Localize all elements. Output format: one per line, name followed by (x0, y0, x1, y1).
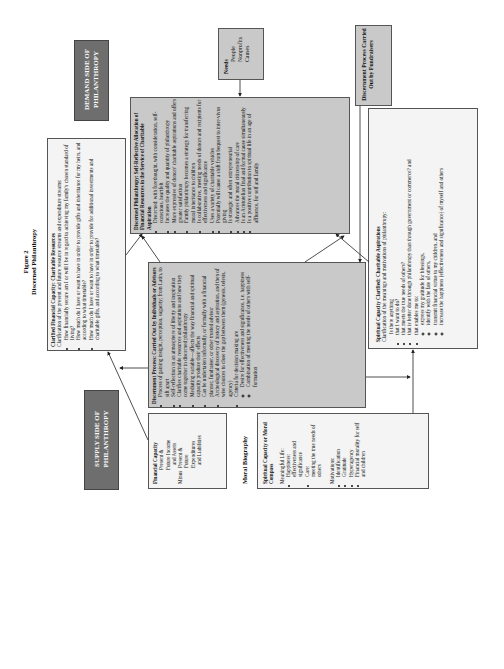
list-item: More expressive of donors' charitable as… (171, 99, 184, 223)
list-item: Archeological discovery of history and a… (214, 264, 233, 397)
list-item: Can be undertaken informally, or formall… (201, 264, 214, 397)
moral-biography-label: Moral Biography (241, 430, 249, 490)
needs-title: Needs (223, 59, 229, 74)
needs-item: People (230, 32, 237, 62)
list-item: Process of gaining insight, perception, … (157, 264, 170, 397)
list-item: Mediating variable—affects the way finan… (189, 264, 202, 397)
list-item: Is collaborative, meeting needs of donor… (196, 99, 209, 223)
discernment-process-title: Discernment Process: Carried Out by Indi… (151, 267, 157, 404)
list-item: How much do I have or want to have in or… (88, 140, 101, 340)
supply-side-line1: SUPPLY SIDE OF (93, 392, 102, 486)
list-item: Care:meeting the true needs of others (304, 416, 323, 477)
sub-list-item: increase the happiness (effectiveness an… (438, 113, 444, 325)
list-item: Is a positive contribution to spiritual … (246, 99, 259, 223)
clarified-financial-title: Clarified Financial Capacity: Charitable… (50, 233, 56, 347)
needs-box: Needs People Nonprofits Causes (218, 28, 264, 80)
spiritual-clarified-box: Spiritual Capacity Clarified: Charitable… (368, 108, 478, 349)
figure-title: Figure 2 Discerned Philanthropy (22, 224, 38, 300)
fundraisers-title: Discernment Process Carried Out by Fundr… (361, 28, 375, 101)
demand-side-line1: DEMAND SIDE OF (83, 42, 92, 117)
moral-biography-text: Moral Biography (241, 436, 248, 484)
fundraisers-box: Discernment Process Carried Out by Fundr… (355, 25, 392, 106)
clarified-financial-box: Clarified Financial Capacity: Charitable… (47, 138, 126, 351)
spiritual-compass-title: Spiritual Capacity or Moral Compass (262, 422, 274, 484)
list-item: How much do I have or want to have in or… (75, 140, 88, 340)
minus-label: Minus (177, 468, 202, 484)
discerned-philanthropy-title: Discerned Philanthropy: Self-Reflective … (133, 113, 152, 230)
financial-capacity-box: Financial Capacity Present & Future Inco… (148, 413, 227, 489)
list-item: Financial morality for self and children (354, 416, 367, 477)
list-item: Potentially will cause a shift from bequ… (215, 99, 228, 223)
figure-number: Figure 2 (22, 224, 30, 300)
figure-name: Discerned Philanthropy (30, 224, 38, 300)
demand-side-box: DEMAND SIDE OF PHILANTHROPY (74, 40, 109, 121)
list-item: Family philanthropy becomes a strategy f… (183, 99, 196, 223)
list-item: How financially secure am I or will I be… (63, 140, 76, 340)
spiritual-compass-box: Spiritual Capacity or Moral Compass Mean… (257, 413, 429, 489)
financial-line: and Liabilities (196, 435, 202, 468)
list-item: Clarifies charitable resources and aspir… (176, 264, 189, 397)
discernment-process-box: Discernment Process: Carried Out by Indi… (148, 262, 366, 408)
supply-side-line2: PHILANTHROPY (102, 392, 111, 486)
discerned-philanthropy-box: Discerned Philanthropy: Self-Reflective … (130, 97, 350, 234)
supply-side-box: SUPPLY SIDE OF PHILANTHROPY (84, 390, 119, 490)
needs-item: Nonprofits (237, 32, 244, 62)
spiritual-clarified-title: Spiritual Capacity Clarified: Charitable… (375, 226, 381, 342)
needs-item: Causes (244, 32, 251, 62)
demand-side-line2: PHILANTHROPY (92, 42, 101, 117)
financial-capacity-title: Financial Capacity (152, 442, 158, 484)
sub-list-item: Combination of meeting the needs of othe… (245, 264, 258, 387)
list-item: Happiness:effectiveness and significance (285, 416, 304, 477)
list-item: Discerned: with forethought, with consid… (152, 99, 165, 223)
